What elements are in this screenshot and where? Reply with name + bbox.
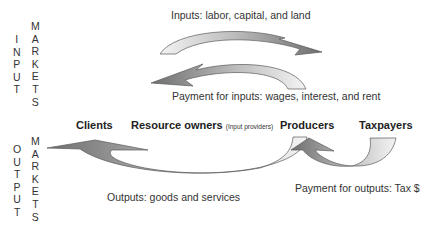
input-providers-note: (Input providers) (226, 123, 273, 130)
payment-outputs-label: Payment for outputs: Tax $ (295, 182, 420, 194)
payment-inputs-label: Payment for inputs: wages, interest, and… (172, 90, 380, 102)
clients-label: Clients (76, 119, 113, 131)
resource-owners-label: Resource owners (Input providers) (131, 119, 273, 131)
inputs-label: Inputs: labor, capital, and land (171, 9, 311, 21)
inputs-arrow (160, 31, 322, 55)
resource-owners-text: Resource owners (131, 119, 223, 131)
outputs-arrow (47, 137, 307, 173)
outputs-label: Outputs: goods and services (107, 191, 240, 203)
producers-label: Producers (280, 119, 334, 131)
payment-inputs-arrow (151, 64, 306, 89)
payment-outputs-arrow (291, 138, 396, 166)
taxpayers-label: Taxpayers (359, 119, 413, 131)
